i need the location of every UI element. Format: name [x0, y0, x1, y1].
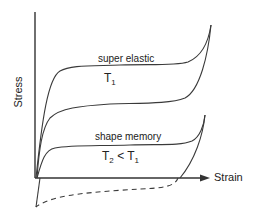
t2-lt-t1-label: T2 < T1 [102, 149, 140, 165]
curve-shape-memory-loading [37, 115, 205, 178]
shape-memory-label: shape memory [95, 131, 161, 142]
strain-axis-arrowhead [200, 175, 210, 182]
strain-axis-label: Strain [214, 171, 243, 183]
curve-initial-branch [36, 178, 40, 207]
t1-label: T1 [104, 71, 116, 87]
stress-axis-label: Stress [12, 76, 24, 108]
stress-strain-diagram: Stress Strain super elastic T1 shape mem… [0, 0, 253, 220]
curve-shape-memory-reverse-dashed [36, 178, 178, 207]
curve-shape-memory-unloading [180, 115, 205, 178]
super-elastic-label: super elastic [98, 53, 154, 64]
